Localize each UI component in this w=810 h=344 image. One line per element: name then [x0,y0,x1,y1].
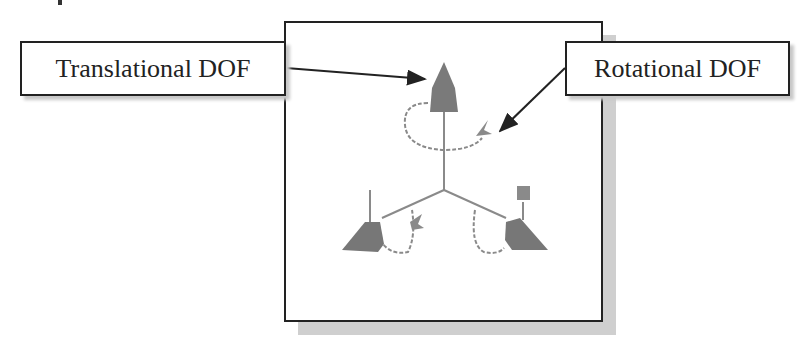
rotational-dof-text: Rotational DOF [594,54,761,84]
translational-callout-arrow [286,68,425,79]
translational-cone-icon [342,222,384,252]
triad-icon [370,103,523,253]
translational-dof-label: Translational DOF [20,41,286,96]
rotational-arc-icon [476,120,492,136]
translational-cone-icon [505,218,548,250]
rotational-dof-label: Rotational DOF [565,41,790,96]
translational-dof-text: Translational DOF [56,54,251,84]
translational-end-block [517,186,530,200]
translational-cone-icon [430,62,458,112]
rotational-callout-arrow [500,68,565,131]
